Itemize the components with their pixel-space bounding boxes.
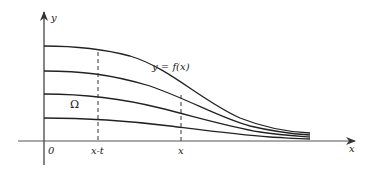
function-family-diagram: y x 0 x-t x y = f(x) Ω bbox=[0, 0, 371, 169]
x-axis-label: x bbox=[349, 143, 355, 154]
x-mark-label: x bbox=[178, 145, 184, 156]
diagram-canvas: y x 0 x-t x y = f(x) Ω bbox=[0, 0, 371, 169]
region-omega-label: Ω bbox=[70, 98, 79, 111]
curve-2 bbox=[44, 71, 310, 135]
y-axis-label: y bbox=[50, 12, 57, 23]
curve-1 bbox=[44, 46, 310, 133]
x-minus-t-label: x-t bbox=[91, 145, 105, 156]
origin-label: 0 bbox=[48, 145, 55, 156]
curve-label: y = f(x) bbox=[151, 61, 190, 72]
curve-4 bbox=[44, 118, 310, 139]
